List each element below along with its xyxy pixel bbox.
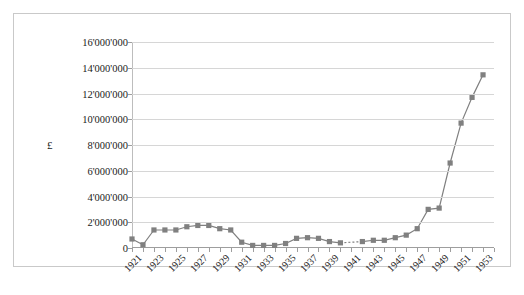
chart-screenshot: £ 16'000'00014'000'00012'000'00010'000'0… <box>0 0 524 295</box>
data-point-marker <box>382 238 387 243</box>
data-point-marker <box>294 236 299 241</box>
y-axis-tick-label: 12'000'000 <box>82 88 128 99</box>
x-axis-tick-labels: 1921192319251927192919311933193519371939… <box>132 250 494 295</box>
plot-area <box>132 42 494 248</box>
data-point-marker <box>239 240 244 245</box>
data-point-marker <box>217 226 222 231</box>
data-point-marker <box>283 241 288 246</box>
gridline <box>132 197 494 198</box>
data-point-marker <box>184 224 189 229</box>
data-point-marker <box>228 227 233 232</box>
y-axis-tick-label: 4'000'000 <box>87 191 128 202</box>
data-point-marker <box>206 223 211 228</box>
gridline <box>132 68 494 69</box>
data-point-marker <box>140 242 145 247</box>
data-point-marker <box>129 236 134 241</box>
series-segment <box>362 75 483 242</box>
data-point-marker <box>415 226 420 231</box>
y-axis-tick <box>128 171 132 172</box>
y-axis-tick-label: 16'000'000 <box>82 37 128 48</box>
gridline <box>132 119 494 120</box>
y-axis-tick-label: 6'000'000 <box>87 165 128 176</box>
y-axis-unit-label: £ <box>47 139 53 151</box>
y-axis-tick <box>128 197 132 198</box>
y-axis-tick <box>128 222 132 223</box>
data-point-marker <box>448 160 453 165</box>
data-point-marker <box>360 239 365 244</box>
gridline <box>132 145 494 146</box>
data-point-marker <box>393 235 398 240</box>
data-point-marker <box>437 205 442 210</box>
y-axis-tick-label: 14'000'000 <box>82 62 128 73</box>
y-axis-tick-label: 10'000'000 <box>82 114 128 125</box>
data-point-marker <box>469 95 474 100</box>
data-point-marker <box>404 233 409 238</box>
x-axis-tick <box>494 248 495 252</box>
data-point-marker <box>173 227 178 232</box>
gridline <box>132 42 494 43</box>
y-axis-tick <box>128 145 132 146</box>
y-axis-tick <box>128 42 132 43</box>
data-point-marker <box>458 121 463 126</box>
data-point-marker <box>327 239 332 244</box>
y-axis-tick-label: 8'000'000 <box>87 140 128 151</box>
y-axis-tick <box>128 68 132 69</box>
data-point-marker <box>195 223 200 228</box>
data-point-marker <box>426 207 431 212</box>
gridline <box>132 94 494 95</box>
data-point-marker <box>305 235 310 240</box>
chart-frame: £ 16'000'00014'000'00012'000'00010'000'0… <box>13 13 511 267</box>
data-point-marker <box>162 227 167 232</box>
data-point-marker <box>316 236 321 241</box>
data-point-marker <box>151 227 156 232</box>
gridline <box>132 171 494 172</box>
data-point-marker <box>480 72 485 77</box>
gridline <box>132 222 494 223</box>
y-axis-tick-labels: 16'000'00014'000'00012'000'00010'000'000… <box>62 38 128 258</box>
y-axis-tick-label: 2'000'000 <box>87 217 128 228</box>
data-point-marker <box>371 238 376 243</box>
y-axis-tick <box>128 119 132 120</box>
data-point-marker <box>338 240 343 245</box>
series-gap-connector <box>340 242 362 243</box>
y-axis-tick <box>128 94 132 95</box>
